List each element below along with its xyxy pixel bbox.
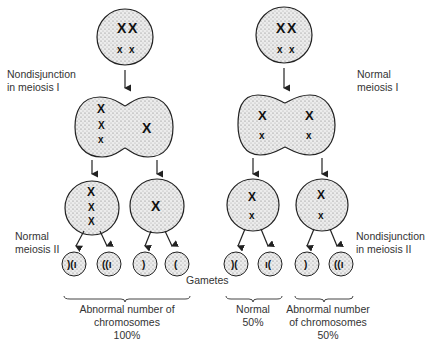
left-meiosis-II-cell-a: X X X: [65, 181, 119, 235]
svg-text:X: X: [258, 108, 267, 123]
right-gametes: )( ı( ) ((ı: [224, 252, 353, 276]
right-parent-cell: X X x x: [256, 7, 312, 63]
arrow-icon: [145, 231, 151, 246]
outcome-left-percent: 100%: [64, 329, 190, 342]
left-meiosis-II-cell-b: X: [130, 179, 184, 233]
svg-text:X: X: [317, 188, 325, 202]
svg-text:): ): [142, 259, 145, 270]
outcome-normal: Normal 50%: [222, 303, 284, 329]
svg-text:X: X: [97, 102, 105, 116]
outcome-abnormal-line2: of chromosomes: [283, 316, 373, 329]
svg-text:X: X: [98, 120, 105, 131]
svg-text:X: X: [305, 108, 314, 123]
svg-text:x: x: [129, 44, 135, 55]
outcome-left-line2: chromosomes: [64, 316, 190, 329]
outcome-abnormal-percent: 50%: [283, 329, 373, 342]
svg-text:x: x: [306, 130, 312, 141]
svg-text:X: X: [276, 20, 286, 36]
left-dividing-cell: X X x X: [75, 97, 173, 157]
arrow-icon: [330, 229, 337, 246]
svg-text:X: X: [142, 120, 152, 136]
arrow-icon: [307, 229, 314, 246]
normal-bracket: [226, 296, 282, 302]
svg-text:X: X: [248, 190, 256, 204]
label-normal-meiosis-I: Normal meiosis I: [357, 68, 398, 94]
left-bracket: [64, 296, 190, 302]
label-nondisjunction-meiosis-II: Nondisjunction in meiosis II: [356, 230, 425, 256]
svg-text:)(: )(: [231, 259, 238, 270]
label-normal-meiosis-II: Normal meiosis II: [15, 230, 59, 256]
svg-text:x: x: [98, 134, 104, 145]
right-dividing-cell: X x X x: [238, 95, 335, 155]
svg-text:((ı: ((ı: [102, 259, 112, 270]
outcome-left: Abnormal number of chromosomes 100%: [64, 303, 190, 342]
left-parent-cell: X X x x: [97, 9, 153, 65]
svg-text:x: x: [318, 210, 324, 221]
svg-text:((ı: ((ı: [334, 259, 344, 270]
arrow-icon: [100, 231, 107, 246]
arrow-icon: [261, 229, 268, 246]
outcome-abnormal-line1: Abnormal number: [283, 303, 373, 316]
arrow-icon: [165, 231, 172, 246]
svg-text:)(ı: )(ı: [67, 259, 77, 270]
label-gametes: Gametes: [186, 274, 229, 287]
outcome-normal-percent: 50%: [222, 316, 284, 329]
arrow-icon: [238, 229, 245, 246]
svg-text:): ): [304, 259, 307, 270]
abnormal-bracket: [295, 296, 353, 302]
label-nondisjunction-meiosis-I: Nondisjunction in meiosis I: [7, 68, 76, 94]
svg-text:x: x: [117, 44, 123, 55]
svg-text:X: X: [287, 20, 297, 36]
meiosis-diagram: X X x x X X x X X X X X )(ı ((ı ) (: [0, 0, 442, 350]
svg-text:X: X: [87, 185, 95, 199]
right-meiosis-II-cell-a: X x: [227, 179, 279, 231]
right-meiosis-II-cell-b: X x: [296, 179, 348, 231]
svg-text:x: x: [289, 44, 295, 55]
left-gametes: )(ı ((ı ) (: [62, 252, 189, 276]
svg-text:X: X: [117, 20, 127, 36]
svg-text:X: X: [151, 198, 161, 214]
outcome-normal-line1: Normal: [222, 303, 284, 316]
svg-text:x: x: [259, 130, 265, 141]
svg-text:X: X: [128, 20, 138, 36]
svg-text:x: x: [249, 210, 255, 221]
svg-text:ı(: ı(: [265, 259, 272, 270]
svg-text:x: x: [277, 44, 283, 55]
outcome-left-line1: Abnormal number of: [64, 303, 190, 316]
svg-text:X: X: [88, 216, 95, 227]
outcome-abnormal: Abnormal number of chromosomes 50%: [283, 303, 373, 342]
svg-text:X: X: [88, 202, 95, 213]
arrow-icon: [76, 231, 84, 246]
